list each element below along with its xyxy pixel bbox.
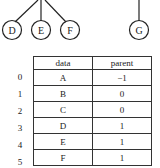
node-label-f: F	[67, 25, 73, 36]
tree-diagram: D E F G	[0, 0, 160, 56]
cell-parent: 1	[93, 150, 152, 166]
edge-to-f	[45, 0, 66, 22]
table-row: E 1	[34, 134, 152, 150]
header-data: data	[34, 57, 93, 70]
row-index-2: 2	[15, 106, 25, 116]
node-label-e: E	[38, 25, 44, 36]
row-index-4: 4	[15, 140, 25, 150]
node-label-g: G	[135, 25, 142, 36]
cell-data: C	[34, 102, 93, 118]
parent-array-table: data parent A −1 B 0 C 0 D 1 E 1 F 1	[33, 56, 152, 166]
table-row: B 0	[34, 86, 152, 102]
table-row: F 1	[34, 150, 152, 166]
cell-parent: 0	[93, 86, 152, 102]
cell-data: E	[34, 134, 93, 150]
edge-to-d	[15, 0, 38, 22]
cell-parent: −1	[93, 70, 152, 86]
row-index-1: 1	[15, 89, 25, 99]
cell-data: A	[34, 70, 93, 86]
table-row: D 1	[34, 118, 152, 134]
table-header-row: data parent	[34, 57, 152, 70]
cell-parent: 1	[93, 118, 152, 134]
row-index-3: 3	[15, 123, 25, 133]
cell-parent: 1	[93, 134, 152, 150]
header-parent: parent	[93, 57, 152, 70]
cell-data: F	[34, 150, 93, 166]
cell-data: B	[34, 86, 93, 102]
table-row: C 0	[34, 102, 152, 118]
node-label-d: D	[8, 25, 15, 36]
cell-parent: 0	[93, 102, 152, 118]
table-row: A −1	[34, 70, 152, 86]
row-index-0: 0	[15, 72, 25, 82]
cell-data: D	[34, 118, 93, 134]
row-index-5: 5	[15, 157, 25, 167]
